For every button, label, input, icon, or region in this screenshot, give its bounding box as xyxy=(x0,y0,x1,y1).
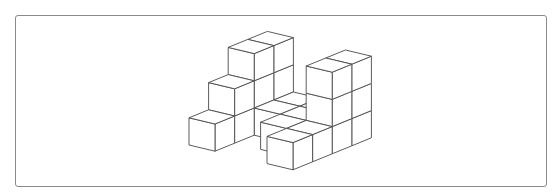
cube xyxy=(189,110,235,151)
cube-structure-diagram xyxy=(0,0,554,195)
cube xyxy=(306,58,352,99)
cube xyxy=(209,75,255,116)
cube xyxy=(228,39,274,80)
cube-group xyxy=(189,31,371,169)
cube xyxy=(267,128,313,169)
